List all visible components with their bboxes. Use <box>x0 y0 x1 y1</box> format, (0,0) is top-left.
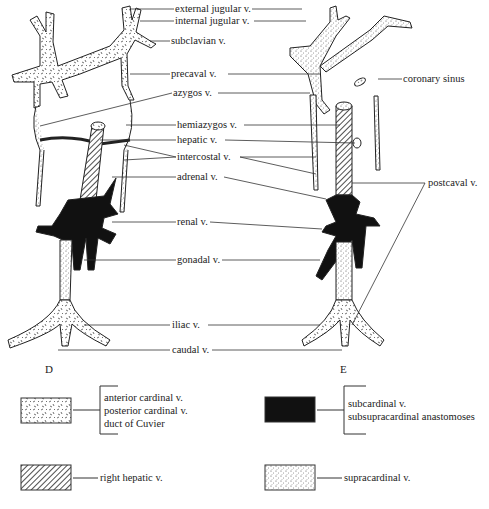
label-gonadal: gonadal v. <box>177 254 220 266</box>
legend-text: duct of Cuvier <box>104 417 188 430</box>
legend-swatches <box>21 386 366 490</box>
legend-text: anterior cardinal v. <box>104 391 188 404</box>
legend-cardinal: anterior cardinal v. posterior cardinal … <box>104 391 188 430</box>
label-hemiazygos: hemiazygos v. <box>177 119 237 131</box>
legend-text: right hepatic v. <box>100 471 163 484</box>
label-internal-jugular: internal jugular v. <box>175 15 249 27</box>
legend-text: subcardinal v. <box>348 397 475 410</box>
label-postcaval: postcaval v. <box>428 177 477 189</box>
label-coronary-sinus: coronary sinus <box>403 73 465 85</box>
label-iliac: iliac v. <box>172 319 200 331</box>
label-precaval: precaval v. <box>171 68 216 80</box>
label-azygos: azygos v. <box>173 87 212 99</box>
legend-text: subsupracardinal anastomoses <box>348 410 475 423</box>
legend-supracardinal: supracardinal v. <box>344 471 410 484</box>
label-intercostal: intercostal v. <box>177 151 231 163</box>
label-external-jugular: external jugular v. <box>175 3 251 15</box>
legend-text: supracardinal v. <box>344 471 410 484</box>
vein-development-diagram: external jugular v. internal jugular v. … <box>0 0 489 509</box>
figure-label-e: E <box>340 363 347 375</box>
label-adrenal: adrenal v. <box>177 171 218 183</box>
figure-label-d: D <box>45 363 53 375</box>
legend-subcardinal: subcardinal v. subsupracardinal anastomo… <box>348 397 475 423</box>
legend-text: posterior cardinal v. <box>104 404 188 417</box>
label-renal: renal v. <box>177 216 208 228</box>
label-caudal: caudal v. <box>172 344 209 356</box>
figure-e <box>290 6 412 346</box>
legend-hepatic: right hepatic v. <box>100 471 163 484</box>
label-subclavian: subclavian v. <box>171 35 226 47</box>
label-hepatic: hepatic v. <box>177 134 217 146</box>
